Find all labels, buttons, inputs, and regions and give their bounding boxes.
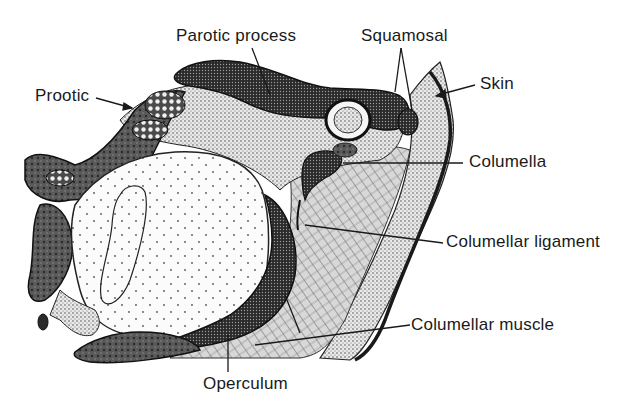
leader-squamosal-a (395, 48, 401, 92)
anatomical-figure (0, 0, 636, 416)
left-lower-bone (28, 204, 72, 301)
label-prootic: Prootic (35, 86, 89, 106)
prootic-inclusion (46, 170, 74, 186)
label-squamosal: Squamosal (361, 26, 448, 46)
prootic-cartilage (145, 91, 185, 119)
small-nodule (38, 314, 48, 330)
label-operculum: Operculum (203, 374, 288, 394)
label-skin: Skin (480, 74, 514, 94)
label-columellar-muscle: Columellar muscle (411, 315, 554, 335)
label-columella: Columella (469, 152, 546, 172)
label-parotic-process: Parotic process (176, 26, 296, 46)
columella-head (333, 143, 357, 157)
prootic-cartilage-2 (132, 120, 168, 140)
squamosal-bone (398, 109, 418, 135)
ear-ring-inner (334, 107, 362, 133)
label-columellar-ligament: Columellar ligament (446, 232, 600, 252)
